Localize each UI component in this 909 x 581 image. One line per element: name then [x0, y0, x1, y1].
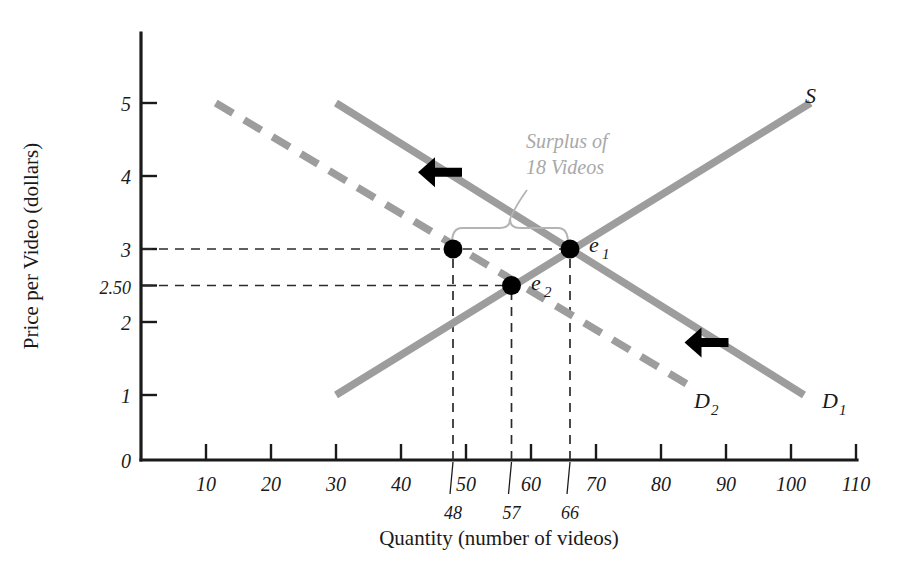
y-axis-title: Price per Video (dollars): [19, 143, 43, 350]
x-tick-label: 20: [261, 473, 281, 495]
x-special-tick-leader: [509, 462, 512, 494]
surplus-annotation-line2: 18 Videos: [526, 156, 604, 178]
y-tick-label: 2.50: [100, 278, 132, 298]
x-tick-label: 60: [521, 473, 541, 495]
x-tick-label: 80: [651, 473, 671, 495]
point-label-e2-subscript: 2: [544, 284, 552, 300]
x-tick-label: 40: [391, 473, 411, 495]
point-label-e1: e: [589, 232, 599, 257]
chart-canvas: 122.503450 102030405060708090100110 4857…: [0, 0, 909, 581]
x-tick-label: 70: [586, 473, 606, 495]
x-axis-title: Quantity (number of videos): [379, 526, 619, 550]
y-axis-ticks: 122.503450: [100, 93, 158, 472]
x-special-tick-label: 48: [444, 503, 462, 523]
x-special-tick-label: 66: [561, 503, 579, 523]
x-tick-label: 10: [196, 473, 216, 495]
equilibrium-points-group: [444, 240, 580, 296]
point-marker-e1: [561, 240, 580, 259]
surplus-annotation-line1: Surplus of: [526, 130, 610, 153]
x-special-tick-leader: [567, 462, 570, 494]
point-marker-e2: [502, 276, 521, 295]
supply-demand-chart: 122.503450 102030405060708090100110 4857…: [0, 0, 909, 581]
point-label-e2: e: [531, 270, 541, 295]
y-tick-label: 4: [121, 166, 131, 188]
x-tick-label: 30: [325, 473, 346, 495]
y-tick-label: 2: [121, 312, 131, 334]
x-tick-label: 90: [716, 473, 736, 495]
x-special-tick-label: 57: [503, 503, 522, 523]
x-tick-label: 100: [776, 473, 806, 495]
y-tick-label: 5: [121, 93, 131, 115]
y-axis-origin-label: 0: [121, 450, 131, 472]
curve-label-demand-1-subscript: 1: [839, 402, 847, 418]
curve-label-supply: S: [805, 83, 816, 108]
point-label-e1-subscript: 1: [602, 246, 610, 262]
y-tick-label: 1: [121, 385, 131, 407]
point-marker-surplus-left: [444, 240, 463, 259]
y-tick-label: 3: [120, 239, 131, 261]
curve-label-demand-2-subscript: 2: [711, 402, 719, 418]
curve-label-demand-2: D: [693, 388, 710, 413]
axis-group: [141, 33, 857, 460]
x-tick-label: 110: [842, 473, 871, 495]
curve-label-demand-1: D: [821, 388, 838, 413]
x-axis-ticks: 102030405060708090100110: [196, 444, 870, 495]
x-tick-label: 50: [456, 473, 476, 495]
x-special-tick-leader: [450, 462, 453, 494]
